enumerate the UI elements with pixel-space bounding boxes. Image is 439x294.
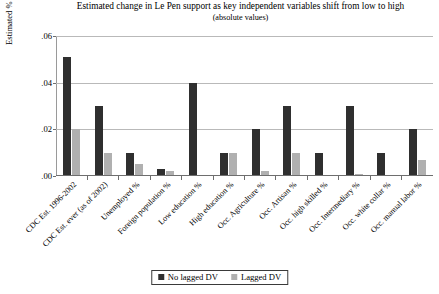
x-axis-line xyxy=(56,175,433,176)
bar xyxy=(126,153,134,176)
chart-legend: No lagged DV Lagged DV xyxy=(151,270,288,285)
bar xyxy=(95,106,103,176)
bar-group xyxy=(339,36,370,176)
bar-chart: Estimated change in Le Pen support as ke… xyxy=(0,0,439,294)
bar xyxy=(220,153,228,176)
bar-groups xyxy=(56,36,433,176)
chart-subtitle: (absolute values) xyxy=(48,12,433,23)
bar-group xyxy=(182,36,213,176)
bar-group xyxy=(119,36,150,176)
bar xyxy=(346,106,354,176)
bar xyxy=(315,153,323,176)
x-axis-labels: CDC Est. 1996-2002CDC Est. ever (as of 2… xyxy=(56,180,433,262)
legend-label: Lagged DV xyxy=(241,272,281,282)
y-axis-title-text: Estimated % Δ in Le Pen support xyxy=(4,0,14,45)
bar-group xyxy=(402,36,433,176)
bar xyxy=(418,160,426,176)
bar-group xyxy=(276,36,307,176)
bar xyxy=(252,129,260,176)
bar xyxy=(72,129,80,176)
bar-group xyxy=(245,36,276,176)
bar-group xyxy=(307,36,338,176)
y-tick-label: .04 xyxy=(41,78,52,88)
legend-item-no-lagged-dv: No lagged DV xyxy=(158,272,218,282)
bar-group xyxy=(150,36,181,176)
bar-group xyxy=(213,36,244,176)
chart-title-block: Estimated change in Le Pen support as ke… xyxy=(48,1,433,23)
x-label-cell: Occ. manual labor % xyxy=(402,180,433,262)
bar-group xyxy=(56,36,87,176)
bar xyxy=(63,57,71,176)
legend-swatch-icon xyxy=(158,274,164,280)
y-tick-label: .06 xyxy=(41,31,52,41)
plot-area: .00.02.04.06 xyxy=(56,36,433,176)
chart-title: Estimated change in Le Pen support as ke… xyxy=(48,1,433,12)
bar xyxy=(189,83,197,176)
y-tick-label: .02 xyxy=(41,124,52,134)
bar xyxy=(409,129,417,176)
bar-group xyxy=(370,36,401,176)
x-tick-label: CDC Est. 1996-2002 xyxy=(24,180,79,235)
x-label-cell: Occ. Agriculture % xyxy=(245,180,276,262)
bar-group xyxy=(87,36,118,176)
y-tick-label: .00 xyxy=(41,171,52,181)
y-tick-mark xyxy=(53,176,56,177)
bar xyxy=(229,153,237,176)
legend-swatch-icon xyxy=(231,274,237,280)
x-label-cell: CDC Est. ever (as of 2002) xyxy=(87,180,118,262)
bar xyxy=(292,153,300,176)
legend-item-lagged-dv: Lagged DV xyxy=(231,272,281,282)
bar xyxy=(283,106,291,176)
bar xyxy=(104,153,112,176)
legend-label: No lagged DV xyxy=(168,272,218,282)
bar xyxy=(377,153,385,176)
y-axis-title: Estimated % Δ in Le Pen support xyxy=(4,0,18,58)
